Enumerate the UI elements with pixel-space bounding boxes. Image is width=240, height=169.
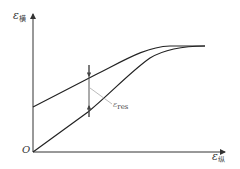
x-axis-label: ε纵 <box>212 151 225 164</box>
y-axis-label: ε横 <box>13 10 26 23</box>
x-axis-subscript: 纵 <box>218 156 225 164</box>
annotation-pointer-line <box>90 88 112 104</box>
lower-curve <box>33 46 205 152</box>
strain-diagram: ε横 ε纵 O εres <box>0 0 240 169</box>
annotation-label: εres <box>113 101 128 111</box>
annotation-subscript: res <box>117 103 128 111</box>
origin-label: O <box>22 145 30 155</box>
upper-curve <box>33 46 205 107</box>
diagram-svg <box>0 0 240 169</box>
y-axis-subscript: 横 <box>19 15 26 23</box>
